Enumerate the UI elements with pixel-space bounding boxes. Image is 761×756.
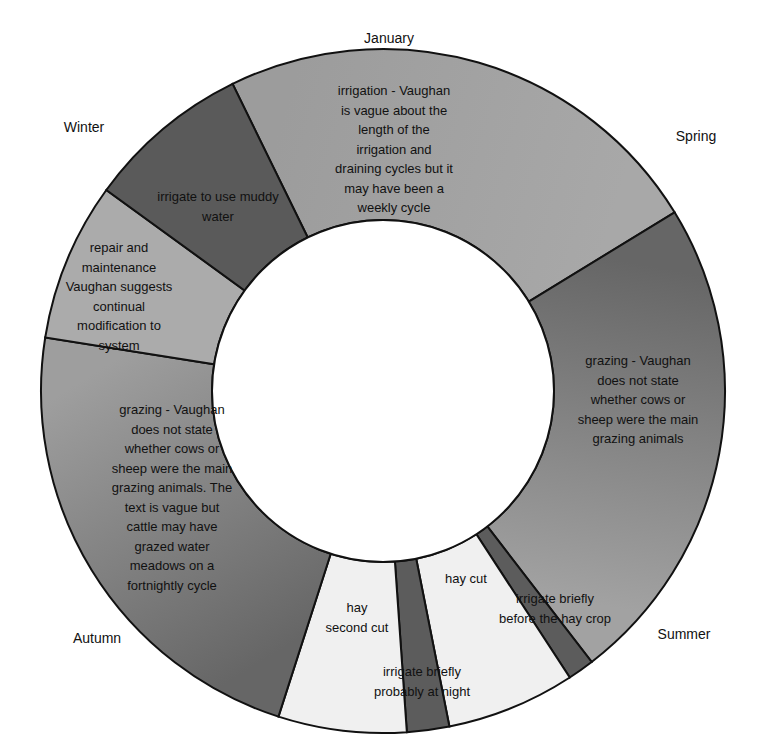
donut-chart: irrigation - Vaughanis vague about thele… [0,0,761,756]
donut-hole [212,220,554,562]
segment-label: hay cut [445,571,487,586]
segment-label: grazing - Vaughandoes not statewhether c… [578,353,699,446]
category-label-january: January [364,30,414,46]
category-label-winter: Winter [64,119,105,135]
category-label-spring: Spring [676,128,716,144]
category-label-summer: Summer [658,626,711,642]
category-label-autumn: Autumn [73,630,121,646]
